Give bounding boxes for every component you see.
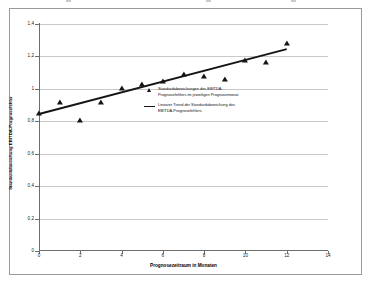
y-axis-tick-label: 1,4 xyxy=(28,22,34,27)
trend-line xyxy=(39,24,328,251)
legend-item-trend: Linearer Trend der Standardabweichung de… xyxy=(143,102,273,114)
triangle-marker-icon xyxy=(147,88,151,92)
x-axis-tick-label: 6 xyxy=(162,254,165,259)
data-point-marker xyxy=(284,41,290,46)
x-axis-tick-label: 8 xyxy=(203,254,206,259)
data-point-marker xyxy=(180,71,186,76)
data-point-marker xyxy=(118,85,124,90)
data-point-marker xyxy=(222,76,228,81)
line-marker-icon xyxy=(144,106,155,107)
figure: Standardabweichung EBITDA-Prognosefehler… xyxy=(0,0,374,286)
y-axis-tick-label: 0,4 xyxy=(28,184,34,189)
y-axis-tick-label: 1,2 xyxy=(28,54,34,59)
data-point-marker xyxy=(57,100,63,105)
chart-legend: Standardabweichungen des EBITDA- Prognos… xyxy=(143,86,273,117)
data-point-marker xyxy=(263,59,269,64)
x-axis-tick-label: 0 xyxy=(38,254,41,259)
x-axis-tick-label: 14 xyxy=(325,254,330,259)
y-axis-title: Standardabweichung EBITDA-Prognosefehler xyxy=(9,96,13,190)
x-axis-tick-label: 12 xyxy=(284,254,289,259)
data-point-marker xyxy=(98,99,104,104)
legend-item-scatter: Standardabweichungen des EBITDA- Prognos… xyxy=(143,86,273,98)
y-axis-tick-label: 0,2 xyxy=(28,216,34,221)
plot-area: 00,20,40,60,811,21,4 02468101214 xyxy=(39,24,328,251)
data-point-marker xyxy=(160,78,166,83)
data-point-marker xyxy=(36,110,42,115)
x-axis-tick-label: 4 xyxy=(120,254,123,259)
legend-label-line2: Prognosefehlers im jeweiligen Prognosemo… xyxy=(158,92,273,98)
x-axis-title: Prognosezeitraum in Monaten xyxy=(39,264,328,269)
data-point-marker xyxy=(201,73,207,78)
data-point-marker xyxy=(242,58,248,63)
y-axis-tick-label: 1 xyxy=(31,87,34,92)
scan-artifact xyxy=(66,0,71,2)
scan-artifact xyxy=(206,0,211,2)
y-axis-tick-label: 0,8 xyxy=(28,119,34,124)
scan-artifact xyxy=(291,0,296,2)
x-axis-tick-label: 10 xyxy=(243,254,248,259)
y-axis-tick-label: 0 xyxy=(31,249,34,254)
y-axis-tick-label: 0,6 xyxy=(28,151,34,156)
x-axis-tick-label: 2 xyxy=(79,254,82,259)
data-point-marker xyxy=(77,118,83,123)
legend-label-line2: EBITDA-Prognosefehlers xyxy=(158,108,273,114)
